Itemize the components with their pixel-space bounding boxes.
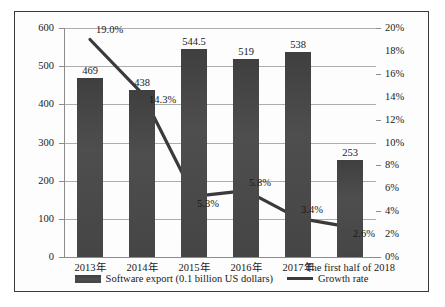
line-value-label: 2.6% (353, 228, 375, 239)
bar-value-label: 253 (320, 147, 380, 158)
bar-value-label: 438 (112, 77, 172, 88)
y-tick-mark-right (376, 74, 381, 75)
bar (337, 160, 363, 257)
legend-item[interactable]: Software export (0.1 billion US dollars) (75, 273, 273, 284)
line-value-label: 14.3% (149, 94, 176, 105)
chart-frame: 6005004003002001000 20%18%16%14%12%10%8%… (14, 11, 429, 292)
y-tick-mark-right (376, 120, 381, 121)
y-tick-label-right: 2% (385, 229, 425, 239)
bar-value-label: 519 (216, 46, 276, 57)
y-tick-label-left: 0 (14, 252, 54, 262)
y-tick-label-right: 16% (385, 69, 425, 79)
y-tick-label-right: 20% (385, 23, 425, 33)
legend-bar-swatch-icon (75, 275, 101, 283)
line-value-label: 3.4% (301, 204, 323, 215)
y-tick-label-right: 0% (385, 252, 425, 262)
line-value-label: 19.0% (96, 24, 123, 35)
legend-line-swatch-icon (287, 277, 313, 280)
y-tick-label-left: 600 (14, 23, 54, 33)
y-tick-label-right: 18% (385, 46, 425, 56)
legend-item[interactable]: Growth rate (287, 273, 368, 284)
y-tick-label-left: 200 (14, 176, 54, 186)
y-tick-mark-right (376, 211, 381, 212)
bar (77, 78, 103, 257)
y-tick-label-left: 400 (14, 99, 54, 109)
y-tick-label-left: 100 (14, 214, 54, 224)
gridline (64, 257, 376, 258)
y-tick-label-right: 14% (385, 92, 425, 102)
plot-area (64, 28, 376, 257)
bar-value-label: 469 (60, 65, 120, 76)
y-tick-label-right: 12% (385, 115, 425, 125)
y-tick-mark-right (376, 28, 381, 29)
y-tick-label-left: 500 (14, 61, 54, 71)
bar (181, 49, 207, 257)
y-tick-label-right: 6% (385, 183, 425, 193)
bar (285, 52, 311, 257)
y-tick-label-left: 300 (14, 138, 54, 148)
y-tick-mark-right (376, 165, 381, 166)
bar (233, 59, 259, 257)
line-value-label: 5.8% (249, 177, 271, 188)
growth-rate-line (64, 28, 376, 257)
chart-legend: Software export (0.1 billion US dollars)… (15, 273, 428, 284)
bar-value-label: 544.5 (164, 36, 224, 47)
y-tick-label-right: 8% (385, 160, 425, 170)
y-tick-label-right: 4% (385, 206, 425, 216)
y-tick-mark-right (376, 257, 381, 258)
bar (129, 90, 155, 257)
legend-label: Software export (0.1 billion US dollars) (106, 273, 273, 284)
line-value-label: 5.3% (197, 198, 219, 209)
bar-value-label: 538 (268, 39, 328, 50)
legend-label: Growth rate (318, 273, 368, 284)
y-tick-label-right: 10% (385, 138, 425, 148)
